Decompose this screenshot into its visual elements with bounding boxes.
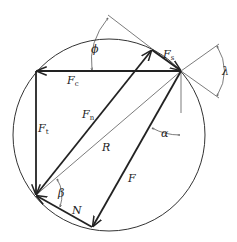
label-n: N: [71, 204, 82, 217]
label-ft: Ft: [37, 122, 49, 136]
label-fn: Fn: [81, 108, 95, 122]
label-phi: ϕ: [91, 43, 99, 56]
label-alpha: α: [161, 127, 169, 140]
label-r: R: [101, 141, 110, 154]
resultant-r-line: [36, 71, 181, 195]
rake-face-line-lower: [181, 71, 219, 98]
merchant-circle-diagram: Fc Ft Fn Fs R F N ϕ λ α β: [0, 0, 237, 242]
force-n-arrow: [37, 196, 92, 227]
label-beta: β: [57, 187, 64, 200]
label-fc: Fc: [66, 74, 79, 88]
label-lambda: λ: [221, 65, 229, 78]
rake-face-line-upper: [181, 44, 219, 71]
label-f: F: [127, 172, 136, 185]
label-fs: Fs: [162, 48, 175, 62]
